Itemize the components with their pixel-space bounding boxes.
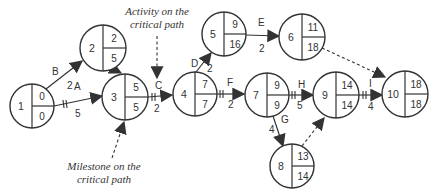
node-early: 0 [39, 91, 45, 102]
activity-a: A 5 [54, 81, 102, 119]
node-early: 9 [274, 80, 280, 91]
milestone-note-line2: critical path [77, 173, 132, 185]
node-id: 8 [278, 160, 284, 172]
node-id: 5 [210, 28, 216, 40]
node-early: 11 [308, 22, 319, 33]
node-early: 14 [341, 80, 353, 91]
activity-f-duration: 2 [228, 99, 234, 110]
activity-b-name: B [52, 66, 59, 77]
activity-g-name: G [281, 114, 289, 125]
node-late: 18 [307, 42, 319, 53]
activity-f-name: F [227, 77, 233, 88]
activity-i-name: I [369, 78, 372, 89]
node-id: 9 [322, 89, 328, 101]
activity-d-name: D [191, 58, 198, 69]
milestone-note-line1: Milestone on the [66, 160, 140, 172]
activity-c-name: C [155, 80, 162, 91]
node-late: 18 [410, 99, 422, 110]
node-id: 3 [111, 91, 117, 103]
activity-f: F 2 [217, 77, 244, 110]
node-late: 16 [229, 39, 241, 50]
node-early: 2 [111, 33, 117, 44]
activity-d: D 2 [191, 53, 213, 74]
activity-g-duration: 4 [269, 124, 275, 135]
activity-e-duration: 2 [259, 43, 265, 54]
activity-note-line2: critical path [130, 18, 185, 30]
critical-tick-icon [63, 100, 64, 108]
node-2: 2 2 5 [80, 25, 126, 71]
activity-h: H 5 [289, 79, 313, 111]
node-id: 6 [288, 31, 294, 43]
node-7: 7 9 9 [245, 73, 289, 117]
node-id: 10 [387, 88, 399, 100]
activity-g: G 4 [269, 114, 289, 146]
activity-h-duration: 5 [297, 100, 303, 111]
activity-a-duration: 5 [75, 108, 81, 119]
activity-d-duration: 2 [207, 63, 213, 74]
node-10: 10 18 18 [382, 71, 428, 117]
node-5: 5 9 16 [202, 12, 246, 56]
activity-annotation: Activity on the critical path [124, 5, 189, 78]
node-early: 18 [410, 79, 422, 90]
node-late: 14 [341, 100, 353, 111]
node-early: 9 [232, 19, 238, 30]
critical-path-diagram: A 5 B 2 C 2 D 2 E 2 F 2 G [0, 0, 436, 191]
activity-h-name: H [298, 79, 305, 90]
node-id: 7 [253, 89, 259, 101]
arrow-a [54, 96, 102, 106]
node-late: 0 [39, 111, 45, 122]
activity-b-duration: 2 [67, 80, 73, 91]
activity-c-duration: 2 [154, 103, 160, 114]
node-id: 1 [18, 100, 24, 112]
arrow-e [246, 35, 279, 36]
node-late: 5 [111, 53, 117, 64]
critical-tick-icon [66, 100, 67, 108]
node-late: 14 [297, 171, 309, 182]
activity-c: C 2 [148, 80, 172, 114]
node-6: 6 11 18 [279, 14, 325, 60]
node-late: 7 [202, 99, 208, 110]
milestone-pointer-arrow [112, 122, 124, 158]
node-early: 7 [202, 79, 208, 90]
activity-e-name: E [258, 17, 265, 28]
dummy-2-3 [113, 69, 121, 73]
node-early: 5 [133, 82, 139, 93]
node-early: 13 [297, 151, 309, 162]
dummy-8-9 [302, 118, 324, 146]
node-late: 5 [133, 102, 139, 113]
node-8: 8 13 14 [270, 144, 314, 188]
activity-i: I 4 [359, 78, 382, 112]
activity-i-duration: 4 [368, 101, 374, 112]
activity-e: E 2 [246, 17, 279, 54]
activity-a-name: A [74, 81, 81, 92]
node-9: 9 14 14 [313, 72, 359, 118]
activity-note-line1: Activity on the [124, 5, 189, 17]
milestone-annotation: Milestone on the critical path [66, 122, 140, 185]
node-1: 1 0 0 [10, 84, 54, 128]
node-3: 3 5 5 [102, 74, 148, 120]
node-id: 4 [181, 88, 187, 100]
node-4: 4 7 7 [173, 72, 217, 116]
node-id: 2 [89, 42, 95, 54]
node-late: 9 [274, 100, 280, 111]
